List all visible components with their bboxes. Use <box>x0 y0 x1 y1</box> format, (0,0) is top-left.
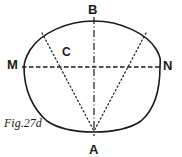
figure-drawing-canvas <box>0 0 182 157</box>
vertex-label-n: N <box>163 59 172 72</box>
vertex-label-b: B <box>88 3 97 16</box>
figure-27d: B M N C A Fig.27d <box>0 0 182 157</box>
figure-caption: Fig.27d <box>4 116 42 130</box>
vertex-label-c: C <box>62 46 71 59</box>
vertex-label-m: M <box>7 58 18 71</box>
vertex-label-a: A <box>89 143 98 156</box>
construction-line-right <box>94 33 146 131</box>
